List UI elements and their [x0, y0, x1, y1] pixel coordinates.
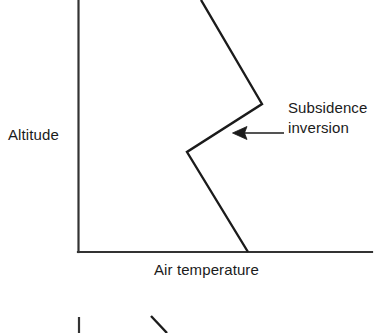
subsidence-inversion-figure: Altitude Air temperature Subsidence inve… — [0, 0, 376, 333]
annotation-label-line-2: inversion — [288, 118, 374, 138]
temperature-profile-line — [187, 0, 262, 252]
left-arrow-icon — [233, 127, 248, 140]
annotation-label: Subsidence inversion — [288, 98, 374, 138]
figure-canvas — [0, 0, 376, 333]
y-axis-label: Altitude — [8, 125, 59, 144]
annotation-label-line-1: Subsidence — [288, 98, 374, 118]
x-axis-label: Air temperature — [154, 260, 259, 279]
cropped-figure-line-stub — [151, 316, 167, 333]
